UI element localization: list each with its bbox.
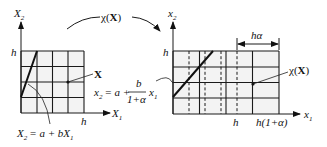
left-y-axis-label: X2	[13, 7, 25, 22]
right-h-x-label: h	[233, 116, 239, 128]
right-h-y-label: h	[163, 46, 169, 58]
transformed-line-equation: x2= a + b 1+α x1	[93, 77, 186, 105]
transformed-equation-var: x1	[148, 86, 157, 101]
left-panel: X2 X1 h h X X2= a + bX1	[11, 7, 122, 142]
right-x-axis-label: x1	[303, 108, 312, 123]
left-point-label: X	[94, 68, 102, 80]
transformed-equation-lhs: x2= a +	[93, 86, 130, 101]
left-h-y-label: h	[11, 46, 17, 58]
right-y-axis-label: x2	[167, 7, 177, 22]
left-h-x-label: h	[81, 115, 87, 127]
right-point-label: χ(X)	[288, 64, 310, 77]
left-x-axis-label: X1	[111, 107, 122, 122]
transform-arrow-left-curve	[67, 17, 100, 29]
dimension-label: hα	[251, 29, 263, 41]
left-line-equation: X2= a + bX1	[16, 127, 74, 142]
fraction-numerator: b	[136, 77, 142, 89]
coordinate-transform-diagram: χ(X) X2 X1 h h X X2= a + bX1	[0, 0, 327, 147]
transform-arrow: χ(X)	[67, 11, 160, 31]
right-panel: x2 x1 h h h(1+α) hα χ(X)	[163, 7, 312, 129]
fraction-denominator: 1+α	[127, 93, 146, 105]
transform-label: χ(X)	[100, 11, 122, 24]
right-h-one-plus-alpha-label: h(1+α)	[256, 116, 288, 129]
transform-arrow-right-curve	[132, 17, 160, 31]
